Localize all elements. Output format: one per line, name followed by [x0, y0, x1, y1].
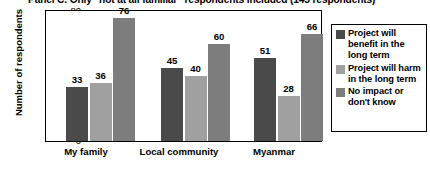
legend-swatch-harm-icon [336, 65, 345, 74]
bar-chart-figure: Panel C. Only "not at all familiar" resp… [0, 0, 430, 177]
legend-label-2: No impact or don't know [348, 86, 424, 108]
legend-item-0: Project will benefit in the long term [336, 28, 424, 62]
bar [253, 58, 277, 141]
bar [65, 87, 89, 141]
bar [89, 83, 113, 142]
legend-label-1: Project will harm in the long term [348, 63, 424, 85]
legend-item-1: Project will harm in the long term [336, 63, 424, 85]
bar-value-label: 76 [109, 6, 139, 16]
x-category-label-2: Myanmar [228, 146, 320, 158]
bar [300, 34, 324, 141]
bar-value-label: 40 [181, 64, 211, 74]
x-category-label-0: My family [40, 146, 132, 158]
legend-swatch-benefit-icon [336, 30, 345, 39]
bar-value-label: 60 [204, 32, 234, 42]
bar-value-label: 51 [250, 46, 280, 56]
chart-title: Panel C. Only "not at all familiar" resp… [28, 0, 428, 6]
bar-value-label: 28 [274, 84, 304, 94]
bar-value-label: 36 [86, 71, 116, 81]
legend: Project will benefit in the long term Pr… [331, 24, 427, 132]
bar-value-label: 66 [297, 22, 327, 32]
bar [207, 44, 231, 142]
y-axis-title: Number of respondents [13, 0, 24, 128]
legend-swatch-noimpact-icon [336, 88, 345, 97]
legend-item-2: No impact or don't know [336, 86, 424, 108]
x-category-label-1: Local community [133, 146, 225, 158]
bar [112, 18, 136, 142]
bar [277, 96, 301, 142]
bar [184, 76, 208, 141]
legend-label-0: Project will benefit in the long term [348, 28, 424, 62]
bar [160, 68, 184, 141]
